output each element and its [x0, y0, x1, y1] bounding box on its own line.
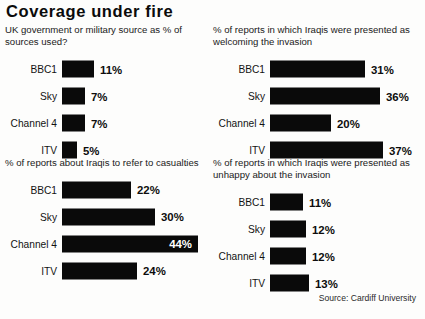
category-label: Sky — [40, 91, 57, 102]
bar-value-label: 11% — [100, 63, 122, 75]
category-label: Channel 4 — [219, 251, 265, 262]
row-label-col: Channel 4 — [4, 110, 57, 137]
bar-row: ITV 24% — [4, 257, 214, 284]
bar-wrap: 36% — [270, 88, 409, 105]
row-label-col: ITV — [4, 257, 57, 284]
infographic-root: Coverage under fire UK government or mil… — [0, 0, 425, 319]
bar-row: BBC1 31% — [212, 56, 422, 83]
bar-wrap: 11% — [270, 194, 331, 211]
bar-value-label: 22% — [137, 184, 160, 196]
bar — [270, 275, 309, 292]
bar — [62, 61, 94, 78]
bar — [270, 194, 303, 211]
bar-value-label: 31% — [371, 63, 394, 75]
category-label: ITV — [249, 278, 265, 289]
category-label: BBC1 — [30, 184, 57, 195]
bar-rows: BBC1 22% Sky 30% Channel 4 — [4, 176, 214, 284]
chart-panel-sources: UK government or military source as % of… — [4, 24, 214, 164]
panel-heading: % of reports in which Iraqis were presen… — [213, 157, 413, 182]
bar — [270, 88, 380, 105]
category-label: Channel 4 — [219, 118, 265, 129]
bar-value-label: 44% — [169, 238, 192, 250]
chart-panel-unhappy: % of reports in which Iraqis were presen… — [212, 157, 422, 297]
bar-wrap: 13% — [270, 275, 338, 292]
bar — [270, 221, 306, 238]
panel-heading: % of reports in which Iraqis were presen… — [213, 24, 413, 49]
row-label-col: Channel 4 — [212, 243, 265, 270]
bar-wrap: 12% — [270, 221, 335, 238]
category-label: Channel 4 — [11, 238, 57, 249]
bar-value-label: 12% — [312, 223, 335, 235]
bar-wrap: 31% — [270, 61, 394, 78]
bar-wrap: 44% — [62, 235, 198, 252]
bar-row: Channel 4 44% — [4, 230, 214, 257]
bar-row: Sky 36% — [212, 83, 422, 110]
bar — [62, 115, 85, 132]
bar-row: Sky 30% — [4, 203, 214, 230]
bar-value-label: 24% — [143, 265, 166, 277]
bar-row: BBC1 22% — [4, 176, 214, 203]
chart-panel-welcoming: % of reports in which Iraqis were presen… — [212, 24, 422, 164]
bar-rows: BBC1 11% Sky 7% Channel 4 — [4, 56, 214, 164]
bar-wrap: 30% — [62, 208, 184, 225]
row-label-col: ITV — [212, 270, 265, 297]
row-label-col: Channel 4 — [212, 110, 265, 137]
bar — [62, 262, 137, 279]
bar-wrap: 7% — [62, 115, 107, 132]
bar-wrap: 12% — [270, 248, 335, 265]
bar-wrap: 7% — [62, 88, 107, 105]
row-label-col: Channel 4 — [4, 230, 57, 257]
bar: 44% — [62, 235, 198, 252]
bar-value-label: 36% — [386, 90, 409, 102]
bar-row: Sky 12% — [212, 216, 422, 243]
bar-value-label: 11% — [309, 196, 331, 208]
bar — [270, 61, 365, 78]
row-label-col: BBC1 — [4, 176, 57, 203]
bar-rows: BBC1 11% Sky 12% Channel 4 — [212, 189, 422, 297]
bar-value-label: 12% — [312, 250, 335, 262]
bar-wrap: 11% — [62, 61, 122, 78]
chart-panel-casualties: % of reports about Iraqis to refer to ca… — [4, 157, 214, 284]
panel-heading: UK government or military source as % of… — [5, 24, 205, 49]
bar — [270, 248, 306, 265]
bar-value-label: 30% — [161, 211, 184, 223]
panel-heading: % of reports about Iraqis to refer to ca… — [5, 157, 205, 169]
bar-row: BBC1 11% — [4, 56, 214, 83]
row-label-col: Sky — [212, 216, 265, 243]
bar-rows: BBC1 31% Sky 36% Channel 4 — [212, 56, 422, 164]
bar-value-label: 7% — [91, 90, 107, 102]
row-label-col: BBC1 — [4, 56, 57, 83]
category-label: BBC1 — [238, 197, 265, 208]
category-label: BBC1 — [30, 64, 57, 75]
category-label: ITV — [41, 265, 57, 276]
row-label-col: BBC1 — [212, 189, 265, 216]
category-label: Channel 4 — [11, 118, 57, 129]
category-label: Sky — [248, 224, 265, 235]
source-attribution: Source: Cardiff University — [319, 293, 416, 303]
row-label-col: Sky — [212, 83, 265, 110]
category-label: Sky — [248, 91, 265, 102]
category-label: ITV — [249, 145, 265, 156]
row-label-col: Sky — [4, 83, 57, 110]
row-label-col: Sky — [4, 203, 57, 230]
bar-wrap: 20% — [270, 115, 360, 132]
row-label-col: BBC1 — [212, 56, 265, 83]
bar-value-label: 13% — [315, 277, 338, 289]
bar-value-label: 5% — [83, 144, 99, 156]
bar — [62, 181, 131, 198]
bar — [62, 88, 85, 105]
category-label: ITV — [41, 145, 57, 156]
page-title: Coverage under fire — [6, 2, 173, 21]
bar-row: Channel 4 7% — [4, 110, 214, 137]
category-label: Sky — [40, 211, 57, 222]
bar-row: BBC1 11% — [212, 189, 422, 216]
bar-row: Channel 4 12% — [212, 243, 422, 270]
category-label: BBC1 — [238, 64, 265, 75]
bar-row: Sky 7% — [4, 83, 214, 110]
bar-value-label: 20% — [337, 117, 360, 129]
bar-value-label: 7% — [91, 117, 107, 129]
bar-wrap: 22% — [62, 181, 160, 198]
bar — [62, 208, 155, 225]
bar-value-label: 37% — [389, 144, 412, 156]
bar-row: Channel 4 20% — [212, 110, 422, 137]
